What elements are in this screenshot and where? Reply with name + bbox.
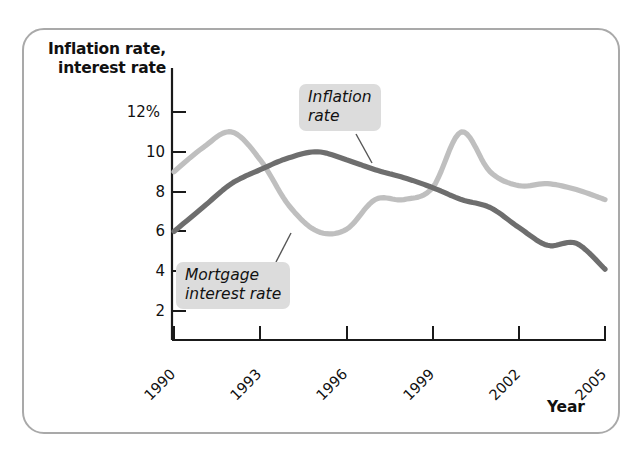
y-axis-tick-label: 12% [100,103,160,121]
y-axis-tick-label: 2 [105,302,165,320]
callout-leader-line-inflation [356,134,372,163]
callout-mortgage-interest-rate: Mortgage interest rate [176,262,290,309]
callout-inflation-rate: Inflation rate [299,84,381,131]
callout-mortgage-line-1: Mortgage [185,266,281,285]
x-axis-tick-marks [174,326,605,340]
callout-mortgage-line-2: interest rate [185,285,281,304]
series-line-inflation-rate [174,152,605,269]
y-axis-title: Inflation rate, interest rate [36,40,166,79]
series-line-mortgage-interest-rate [174,132,605,234]
y-axis-title-line-2: interest rate [36,59,166,78]
x-axis-title: Year [547,398,585,417]
callout-inflation-line-2: rate [308,107,372,126]
y-axis-tick-label: 4 [105,262,165,280]
y-axis-tick-label: 6 [105,222,165,240]
callout-leader-line-mortgage [276,233,291,262]
y-axis-tick-label: 10 [105,143,165,161]
y-axis-title-line-1: Inflation rate, [36,40,166,59]
callout-inflation-line-1: Inflation [308,88,372,107]
y-axis-tick-label: 8 [105,183,165,201]
